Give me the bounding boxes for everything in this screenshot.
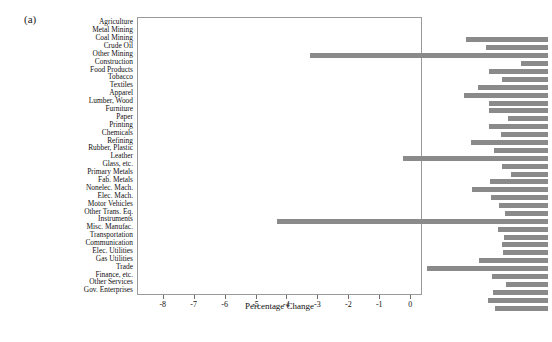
- category-label: Gov. Enterprises: [44, 286, 133, 293]
- bar: [277, 219, 548, 224]
- bar: [466, 37, 548, 42]
- bar: [495, 306, 548, 311]
- category-label: Chemicals: [44, 129, 133, 136]
- bar: [499, 203, 548, 208]
- bar: [504, 235, 548, 240]
- x-tick-mark: [256, 295, 257, 299]
- category-label: Trade: [44, 263, 133, 270]
- bar: [490, 179, 548, 184]
- bar: [489, 69, 548, 74]
- x-tick-mark: [194, 295, 195, 299]
- bar: [492, 274, 548, 279]
- panel-label: (a): [24, 14, 36, 25]
- bar: [489, 108, 548, 113]
- bar: [494, 148, 548, 153]
- bar: [508, 116, 548, 121]
- bar: [493, 290, 548, 295]
- bar: [506, 282, 548, 287]
- bar: [503, 250, 548, 255]
- x-axis-title: Percentage Change: [137, 302, 422, 311]
- bar: [464, 93, 548, 98]
- x-tick-mark: [225, 295, 226, 299]
- x-tick-mark: [410, 295, 411, 299]
- x-tick-mark: [163, 295, 164, 299]
- bar: [502, 242, 548, 247]
- bar: [488, 298, 548, 303]
- category-label: Motor Vehicles: [44, 200, 133, 207]
- x-tick-mark: [379, 295, 380, 299]
- bar: [502, 77, 548, 82]
- bar: [502, 164, 548, 169]
- x-tick-mark: [317, 295, 318, 299]
- bar: [501, 132, 548, 137]
- bar: [403, 156, 548, 161]
- bar: [427, 266, 549, 271]
- bar: [489, 101, 548, 106]
- x-tick-mark: [348, 295, 349, 299]
- bar: [491, 195, 548, 200]
- category-label: Construction: [44, 58, 133, 65]
- bar: [498, 227, 548, 232]
- category-axis-labels: AgricultureMetal MiningCoal MiningCrude …: [44, 17, 133, 295]
- bar-series: [276, 36, 552, 312]
- bar: [479, 258, 548, 263]
- bar: [521, 61, 548, 66]
- bar: [486, 45, 548, 50]
- bar: [511, 172, 548, 177]
- bar: [505, 211, 548, 216]
- bar: [310, 53, 548, 58]
- bar: [472, 187, 548, 192]
- category-label: Elec. Mach.: [44, 192, 133, 199]
- bar: [478, 85, 549, 90]
- bar: [471, 140, 548, 145]
- x-tick-mark: [286, 295, 287, 299]
- bar: [489, 124, 548, 129]
- plot-frame: [137, 17, 422, 295]
